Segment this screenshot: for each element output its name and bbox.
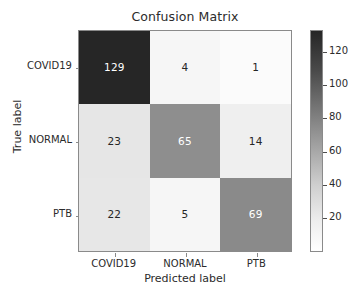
colorbar-gradient: [310, 30, 323, 252]
colorbar-tick-label: 40: [329, 178, 342, 189]
y-tick-mark: [76, 216, 80, 217]
colorbar-tick-label: 60: [329, 145, 342, 156]
y-axis-title: True label: [11, 82, 24, 172]
x-tick-label-ptb: PTB: [216, 258, 296, 269]
heatmap-cell-value: 22: [107, 209, 121, 220]
confusion-matrix-figure: Confusion Matrix 1294123651422569 COVID1…: [0, 0, 356, 296]
x-tick-mark: [115, 253, 116, 257]
heatmap-cell: 129: [79, 31, 150, 104]
heatmap-cell: 1: [220, 31, 291, 104]
x-tick-mark: [186, 253, 187, 257]
colorbar-tick-label: 80: [329, 111, 342, 122]
colorbar-tick-mark: [323, 185, 327, 186]
heatmap-cell-value: 5: [182, 209, 189, 220]
heatmap-cell: 4: [150, 31, 221, 104]
x-tick-label-normal: NORMAL: [145, 258, 225, 269]
x-axis-title: Predicted label: [78, 272, 292, 285]
colorbar-tick-mark: [323, 152, 327, 153]
heatmap-cell: 22: [79, 178, 150, 251]
heatmap-cell-value: 23: [107, 136, 121, 147]
y-tick-mark: [76, 142, 80, 143]
colorbar-tick-mark: [323, 52, 327, 53]
heatmap-cell: 23: [79, 104, 150, 177]
colorbar-tick-mark: [323, 118, 327, 119]
colorbar: [310, 30, 323, 252]
heatmap-cell-value: 69: [249, 209, 263, 220]
x-tick-mark: [257, 253, 258, 257]
colorbar-tick-mark: [323, 85, 327, 86]
heatmap-cell: 5: [150, 178, 221, 251]
y-tick-label-normal: NORMAL: [29, 134, 72, 145]
y-tick-label-ptb: PTB: [53, 208, 72, 219]
colorbar-tick-mark: [323, 218, 327, 219]
heatmap-grid: 1294123651422569: [79, 31, 291, 251]
heatmap-plot-area: 1294123651422569: [78, 30, 292, 252]
x-tick-label-covid19: COVID19: [74, 258, 154, 269]
chart-title: Confusion Matrix: [78, 9, 292, 24]
heatmap-cell-value: 129: [104, 62, 125, 73]
y-tick-label-covid19: COVID19: [27, 60, 72, 71]
heatmap-cell-value: 65: [178, 136, 192, 147]
colorbar-tick-label: 120: [329, 45, 348, 56]
y-tick-mark: [76, 68, 80, 69]
heatmap-cell: 65: [150, 104, 221, 177]
colorbar-tick-label: 100: [329, 78, 348, 89]
heatmap-cell-value: 4: [182, 62, 189, 73]
heatmap-cell-value: 14: [249, 136, 263, 147]
heatmap-cell: 14: [220, 104, 291, 177]
heatmap-cell-value: 1: [252, 62, 259, 73]
colorbar-tick-label: 20: [329, 211, 342, 222]
heatmap-cell: 69: [220, 178, 291, 251]
